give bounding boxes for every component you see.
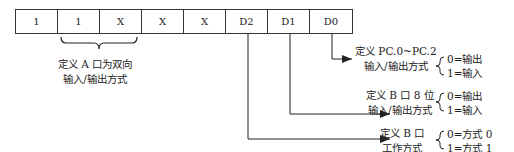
group-a-label: 定义 A 口为双向 输入/输出方式: [58, 57, 132, 87]
d1-label: 定义 B 口 8 位 输入/输出方式: [366, 88, 434, 118]
d1-options: 0=输出 1=输入: [447, 89, 482, 117]
d2-label: 定义 B 口 工作方式: [380, 126, 424, 152]
d2-options: 0=方式 0 1=方式 1: [447, 127, 493, 152]
brace-icon: [61, 37, 137, 49]
d0-options: 0=输出 1=输入: [447, 52, 482, 80]
d0-label: 定义 PC.0~PC.2 输入/输出方式: [355, 44, 437, 74]
